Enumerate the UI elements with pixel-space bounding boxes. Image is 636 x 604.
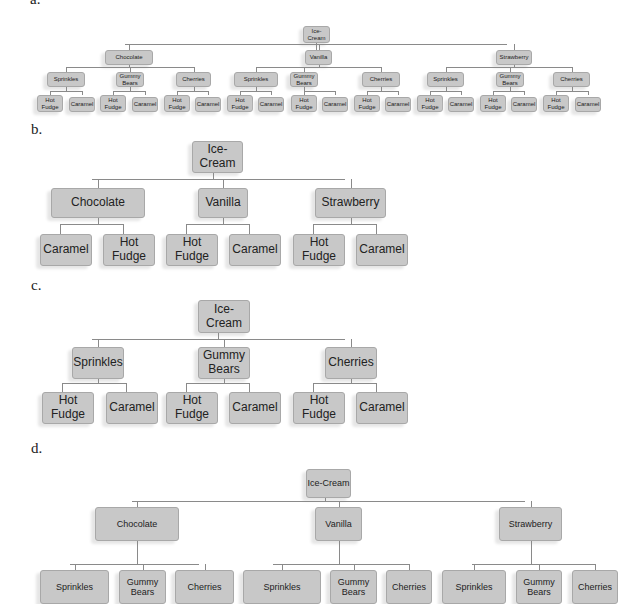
connector-line [145,91,146,95]
node-sauce: Caramel [356,392,408,424]
node-sauce: Hot Fudge [103,234,155,266]
connector-line [313,224,376,225]
node-flavor: Strawberry [496,50,532,65]
node-root: Ice-Cream [303,26,330,43]
connector-line [381,87,382,91]
connector-line [472,564,596,565]
node-flavor: Chocolate [105,50,153,65]
node-sauce: Caramel [511,97,537,112]
node-sauce: Caramel [229,234,281,266]
connector-line [123,224,124,234]
node-sauce: Hot Fudge [480,95,506,112]
connector-line [249,383,250,392]
connector-line [319,65,320,67]
connector-line [376,224,377,234]
node-root: Ice-Cream [306,469,351,498]
connector-line [223,179,224,188]
node-topping: Sprinkles [234,72,278,87]
connector-line [186,224,187,234]
connector-line [137,541,138,564]
connector-line [313,383,314,392]
connector-line [398,91,399,95]
node-topping: Gummy Bears [290,72,318,87]
node-topping: Cherries [572,570,618,604]
node-topping: Cherries [325,347,377,379]
node-topping: Gummy Bears [516,570,562,604]
connector-line [177,91,208,92]
node-topping: Gummy Bears [116,72,144,87]
node-sauce: Hot Fudge [166,234,218,266]
node-topping: Gummy Bears [496,72,524,87]
connector-line [186,383,249,384]
node-sauce: Caramel [322,97,348,112]
node-flavor: Strawberry [499,507,562,541]
node-sauce: Caramel [195,97,221,112]
connector-line [98,179,99,188]
connector-line [335,91,336,95]
connector-line [50,91,82,92]
node-sauce: Caramel [258,97,284,112]
node-topping: Sprinkles [442,570,506,604]
connector-line [126,383,127,392]
label-d: d. [31,440,42,457]
connector-line [208,91,209,95]
connector-line [66,87,67,91]
connector-line [556,91,588,92]
connector-line [376,383,377,392]
connector-line [92,179,345,180]
connector-line [461,91,462,95]
node-sauce: Hot Fudge [417,95,443,112]
connector-line [113,91,145,92]
node-flavor: Vanilla [315,507,362,541]
connector-line [62,383,63,392]
node-root: Ice-Cream [192,141,243,173]
connector-line [256,87,257,91]
node-sauce: Caramel [356,234,408,266]
connector-line [240,91,271,92]
connector-line [572,87,573,91]
node-topping: Cherries [176,72,211,87]
connector-line [62,383,126,384]
node-sauce: Caramel [40,234,92,266]
connector-line [446,67,572,68]
node-sauce: Caramel [448,97,474,112]
node-sauce: Caramel [132,97,158,112]
node-topping: Gummy Bears [119,570,166,604]
node-topping: Sprinkles [243,570,321,604]
node-sauce: Hot Fudge [543,95,569,112]
connector-line [271,91,272,95]
connector-line [60,224,123,225]
connector-line [316,43,317,50]
connector-line [339,541,340,564]
node-topping: Gummy Bears [330,570,377,604]
connector-line [256,67,381,68]
node-flavor: Strawberry [315,188,386,218]
node-topping: Cherries [386,570,432,604]
connector-line [186,224,249,225]
node-topping: Sprinkles [47,72,85,87]
connector-line [313,224,314,234]
node-topping: Sprinkles [72,347,124,379]
connector-line [304,91,335,92]
connector-line [313,383,376,384]
node-sauce: Hot Fudge [354,95,380,112]
connector-line [186,383,187,392]
connector-line [194,87,195,91]
node-sauce: Caramel [385,97,411,112]
connector-line [588,91,589,95]
connector-line [531,541,532,564]
connector-line [132,501,525,502]
connector-line [92,339,345,340]
connector-line [351,339,352,347]
label-b: b. [31,121,42,138]
node-sauce: Hot Fudge [293,234,345,266]
node-sauce: Hot Fudge [164,95,190,112]
connector-line [367,91,398,92]
node-sauce: Caramel [575,97,601,112]
node-flavor: Vanilla [198,188,248,218]
node-root: Ice-Cream [198,300,250,333]
connector-line [493,91,524,92]
connector-line [514,65,515,67]
node-topping: Sprinkles [427,72,464,87]
connector-line [446,87,447,91]
